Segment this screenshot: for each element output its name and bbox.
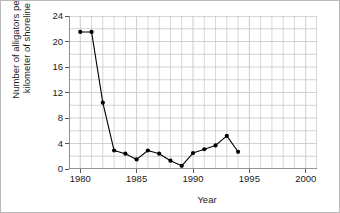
- y-tick-label: 8: [41, 112, 63, 123]
- chart-canvas: [69, 16, 317, 169]
- data-point: [236, 150, 240, 154]
- y-tick-label: 20: [41, 36, 63, 47]
- x-tick-mark: [80, 169, 81, 173]
- data-point: [191, 151, 195, 155]
- x-tick-mark: [136, 169, 137, 173]
- y-axis-label: Number of alligators per kilometer of sh…: [10, 0, 32, 123]
- y-tick-label: 0: [41, 163, 63, 174]
- x-tick-mark: [249, 169, 250, 173]
- x-tick-label: 2000: [286, 173, 326, 184]
- x-tick-label: 1980: [60, 173, 100, 184]
- x-tick-label: 1985: [117, 173, 157, 184]
- data-point: [213, 143, 217, 147]
- data-point: [135, 157, 139, 161]
- data-point: [101, 101, 105, 105]
- y-tick-label: 4: [41, 138, 63, 149]
- data-point: [157, 152, 161, 156]
- data-point: [202, 147, 206, 151]
- data-point: [146, 148, 150, 152]
- plot-area: [69, 16, 317, 169]
- x-tick-mark: [193, 169, 194, 173]
- data-point: [168, 159, 172, 163]
- x-tick-mark: [305, 169, 306, 173]
- y-tick-label: 24: [41, 10, 63, 21]
- data-point: [89, 30, 93, 34]
- y-tick-label: 16: [41, 61, 63, 72]
- x-axis-label-wrap: Year: [1, 194, 340, 205]
- grid-lines-minor: [69, 16, 317, 169]
- data-point: [180, 164, 184, 168]
- y-tick-label: 12: [41, 87, 63, 98]
- data-point: [112, 148, 116, 152]
- data-point: [123, 152, 127, 156]
- x-tick-label: 1995: [229, 173, 269, 184]
- data-point: [78, 30, 82, 34]
- x-tick-label: 1990: [173, 173, 213, 184]
- x-axis-label: Year: [197, 194, 216, 205]
- data-point: [225, 134, 229, 138]
- chart-figure: Number of alligators per kilometer of sh…: [0, 0, 340, 213]
